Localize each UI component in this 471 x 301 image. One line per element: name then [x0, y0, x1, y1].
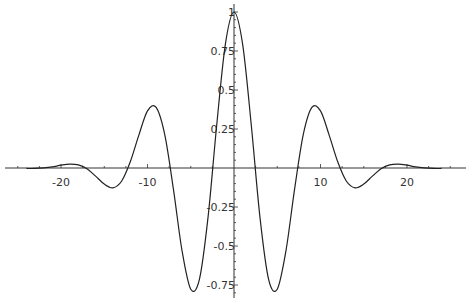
- y-tick-label: -0.5: [214, 240, 235, 253]
- y-tick-label: 0.75: [211, 45, 236, 58]
- tick-labels: -20-101020-0.75-0.5-0.250.250.50.751: [52, 6, 414, 292]
- chart-plot: -20-101020-0.75-0.5-0.250.250.50.751: [0, 0, 471, 301]
- x-tick-label: -20: [52, 176, 70, 189]
- y-tick-label: -0.25: [207, 201, 235, 214]
- x-tick-label: 10: [314, 176, 328, 189]
- x-tick-label: -10: [139, 176, 157, 189]
- y-tick-label: 0.25: [211, 123, 236, 136]
- y-tick-label: -0.75: [207, 279, 235, 292]
- x-tick-label: 20: [400, 176, 414, 189]
